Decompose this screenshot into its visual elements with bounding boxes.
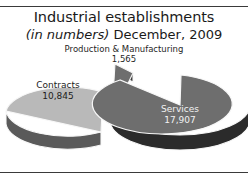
label-contracts-value: 10,845 — [18, 91, 98, 102]
production-callout-label: Production & Manufacturing — [0, 44, 248, 54]
label-services: Services 17,907 — [140, 104, 220, 126]
title-block: Industrial establishments (in numbers) D… — [0, 9, 248, 43]
chart-subtitle: (in numbers) December, 2009 — [0, 26, 248, 43]
label-contracts: Contracts 10,845 — [18, 80, 98, 102]
pie-stage: Contracts 10,845 Services 17,907 — [0, 58, 248, 172]
chart-title: Industrial establishments — [0, 9, 248, 26]
chart-subtitle-unit: (in numbers) — [26, 27, 110, 42]
pie-chart-figure: Industrial establishments (in numbers) D… — [0, 0, 248, 179]
bottom-divider-rule — [0, 172, 248, 173]
label-contracts-name: Contracts — [18, 80, 98, 91]
label-services-name: Services — [140, 104, 220, 115]
label-services-value: 17,907 — [140, 115, 220, 126]
chart-subtitle-period: December, 2009 — [109, 27, 222, 42]
top-divider-rule — [0, 6, 248, 7]
